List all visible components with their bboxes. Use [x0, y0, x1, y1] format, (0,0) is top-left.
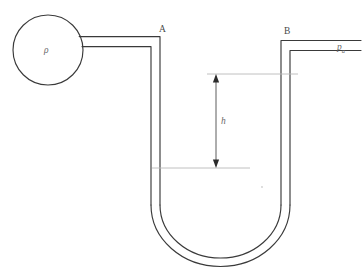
bulb-pressure-label: ρ — [43, 45, 49, 55]
connector-tube-upper-wall — [79, 37, 160, 205]
point-a-label: A — [159, 24, 166, 34]
height-arrow-head-top — [213, 74, 219, 83]
manometer-svg: ρ A B pa h — [0, 0, 362, 270]
height-label: h — [221, 116, 226, 126]
u-bend-outer-wall — [160, 205, 281, 258]
connector-tube-lower-wall — [82, 47, 151, 205]
right-limb-inner-wall — [290, 51, 361, 206]
scan-speck — [261, 186, 263, 188]
height-arrow-head-bottom — [213, 160, 219, 169]
atmospheric-pressure-label: pa — [336, 42, 345, 54]
atmospheric-pressure-subscript: a — [342, 47, 345, 54]
right-limb-outer-wall — [281, 41, 361, 206]
point-b-label: B — [284, 26, 290, 36]
manometer-diagram: ρ A B pa h — [0, 0, 362, 270]
